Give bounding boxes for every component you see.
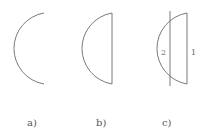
diagram-canvas: a) b) 2 1 c) xyxy=(0,0,201,135)
diagram-svg: a) b) 2 1 c) xyxy=(0,0,201,135)
arc-a xyxy=(14,13,44,84)
caption-a: a) xyxy=(27,117,37,128)
caption-c: c) xyxy=(162,117,172,128)
figure-a: a) xyxy=(14,13,44,128)
figure-b: b) xyxy=(82,13,112,128)
region-label-2: 2 xyxy=(161,48,166,57)
caption-b: b) xyxy=(96,117,106,128)
region-label-1: 1 xyxy=(191,48,196,57)
arc-b xyxy=(82,13,112,84)
figure-c: 2 1 c) xyxy=(157,11,196,128)
